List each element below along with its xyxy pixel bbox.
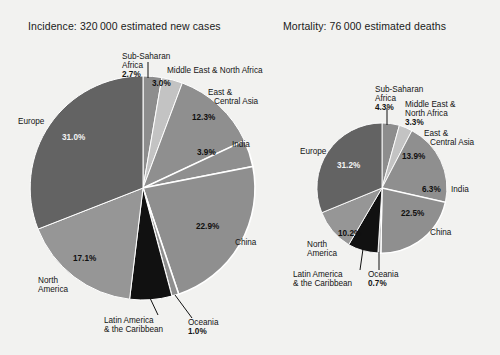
- label-middle-east-north-africa-line2: North Africa: [405, 109, 448, 118]
- value-india: 3.9%: [197, 148, 216, 157]
- value-sub-saharan-africa: 2.7%: [122, 70, 141, 79]
- value-china: 22.9%: [196, 222, 219, 231]
- label-east-central-asia-line2: Central Asia: [214, 97, 258, 106]
- value-sub-saharan-africa: 4.3%: [375, 103, 394, 112]
- value-india: 6.3%: [422, 185, 441, 194]
- label-latin-america-line1: Latin America: [293, 270, 343, 279]
- leader-line-latin-america: [360, 249, 363, 270]
- label-north-america-line1: North: [38, 276, 58, 285]
- label-east-central-asia-line2: Central Asia: [430, 138, 474, 147]
- label-latin-america-line1: Latin America: [104, 316, 154, 325]
- label-europe: Europe: [18, 117, 44, 126]
- label-sub-saharan-africa-line2: Africa: [122, 61, 143, 70]
- label-china: China: [430, 228, 451, 237]
- value-east-central-asia: 12.3%: [192, 113, 215, 122]
- label-sub-saharan-africa-line1: Sub-Saharan: [375, 85, 423, 94]
- label-oceania: Oceania: [368, 270, 399, 279]
- value-north-america: 10.2%: [338, 229, 361, 238]
- label-sub-saharan-africa-line1: Sub-Saharan: [122, 52, 170, 61]
- value-oceania: 0.7%: [368, 279, 387, 288]
- leader-line-oceania: [175, 295, 192, 318]
- leader-line-latin-america: [150, 298, 158, 315]
- mortality-chart-panel: Mortality: 76 000 estimated deaths Sub-S…: [265, 0, 500, 355]
- value-china: 22.5%: [401, 209, 424, 218]
- label-middle-east-north-africa: Middle East & North Africa: [167, 66, 263, 75]
- label-europe: Europe: [300, 147, 326, 156]
- value-oceania: 1.0%: [188, 327, 207, 336]
- value-middle-east-north-africa: 3.3%: [405, 118, 424, 127]
- value-europe: 31.2%: [337, 161, 360, 170]
- label-north-america-line2: America: [307, 249, 337, 258]
- value-middle-east-north-africa: 3.0%: [152, 79, 171, 88]
- label-latin-america-line2: & the Caribbean: [293, 279, 352, 288]
- mortality-pie-graphic: [265, 0, 500, 355]
- label-north-america-line1: North: [307, 240, 327, 249]
- label-china: China: [235, 238, 256, 247]
- label-oceania: Oceania: [188, 318, 219, 327]
- label-north-america-line2: America: [38, 285, 68, 294]
- incidence-chart-panel: Incidence: 320 000 estimated new cases S…: [0, 0, 265, 355]
- label-latin-america-line2: & the Caribbean: [104, 325, 163, 334]
- label-india: India: [232, 140, 250, 149]
- value-europe: 31.0%: [62, 133, 85, 142]
- label-india: India: [451, 185, 469, 194]
- value-north-america: 17.1%: [73, 254, 96, 263]
- label-east-central-asia-line1: East &: [424, 129, 448, 138]
- label-sub-saharan-africa-line2: Africa: [375, 94, 396, 103]
- value-east-central-asia: 13.9%: [402, 152, 425, 161]
- label-east-central-asia-line1: East &: [208, 88, 232, 97]
- label-middle-east-north-africa-line1: Middle East &: [405, 100, 456, 109]
